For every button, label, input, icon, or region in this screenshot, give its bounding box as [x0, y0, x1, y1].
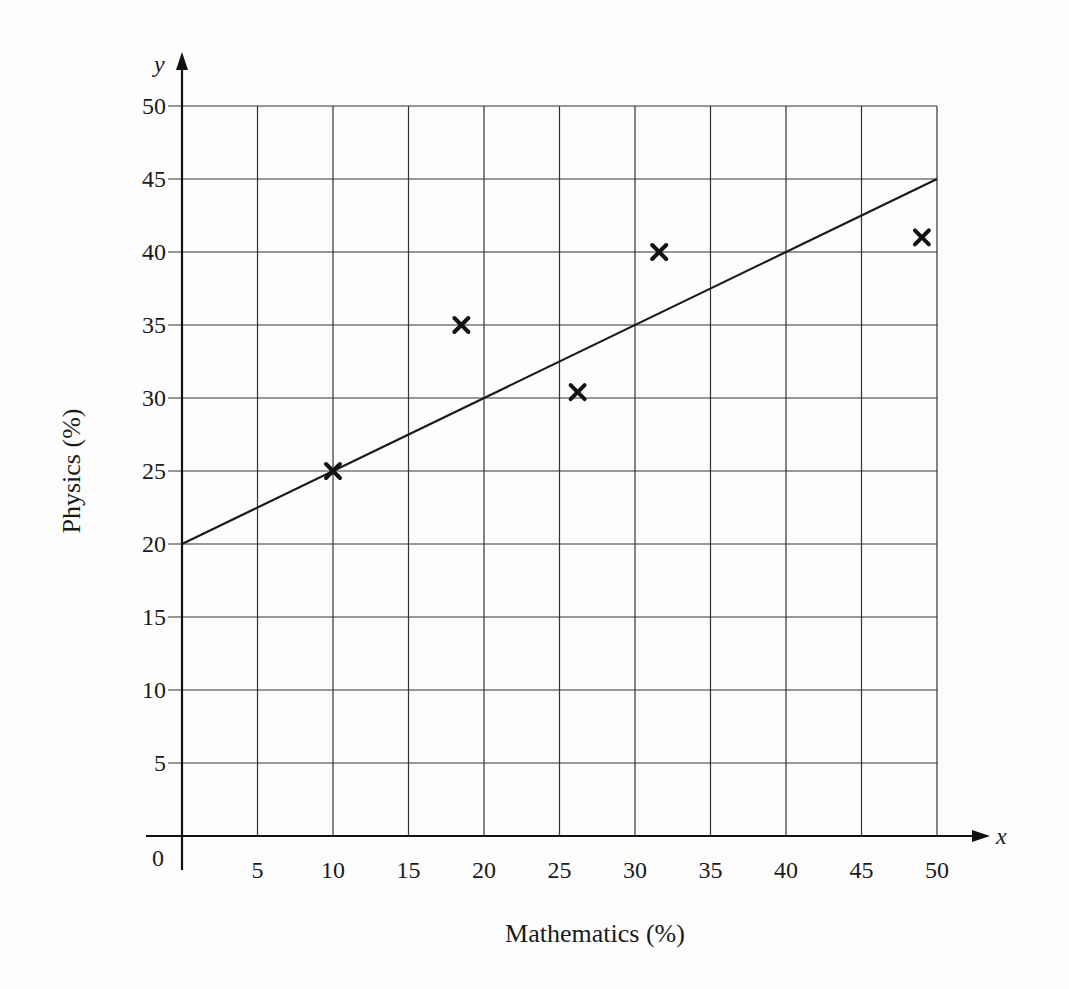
x-tick-label: 35 — [699, 857, 723, 883]
x-tick-label: 5 — [252, 857, 264, 883]
cross-marker-icon — [915, 230, 929, 244]
data-points — [326, 230, 929, 478]
x-tick-label: 45 — [850, 857, 874, 883]
y-tick-label: 15 — [142, 604, 166, 630]
cross-marker-icon — [571, 385, 585, 399]
x-tick-label: 15 — [397, 857, 421, 883]
origin-label: 0 — [152, 845, 164, 871]
x-axis-arrow-icon — [972, 830, 990, 842]
x-tick-label: 40 — [774, 857, 798, 883]
axes — [146, 52, 990, 870]
x-tick-label: 25 — [548, 857, 572, 883]
scatter-chart: 51015202530354045505101520253035404550 M… — [0, 0, 1069, 989]
y-tick-label: 25 — [142, 458, 166, 484]
y-tick-label: 20 — [142, 531, 166, 557]
x-tick-label: 30 — [623, 857, 647, 883]
x-tick-label: 50 — [925, 857, 949, 883]
y-tick-label: 5 — [154, 750, 166, 776]
x-axis-variable: x — [995, 823, 1007, 849]
tick-labels: 51015202530354045505101520253035404550 — [142, 93, 949, 883]
grid-lines — [168, 106, 937, 836]
y-axis-arrow-icon — [176, 52, 188, 70]
y-tick-label: 10 — [142, 677, 166, 703]
x-tick-label: 20 — [472, 857, 496, 883]
y-axis-title: Physics (%) — [57, 409, 86, 534]
y-axis-variable: y — [152, 51, 165, 77]
y-tick-label: 30 — [142, 385, 166, 411]
y-tick-label: 40 — [142, 239, 166, 265]
x-axis-title: Mathematics (%) — [505, 919, 685, 948]
y-tick-label: 50 — [142, 93, 166, 119]
y-tick-label: 45 — [142, 166, 166, 192]
y-tick-label: 35 — [142, 312, 166, 338]
x-tick-label: 10 — [321, 857, 345, 883]
